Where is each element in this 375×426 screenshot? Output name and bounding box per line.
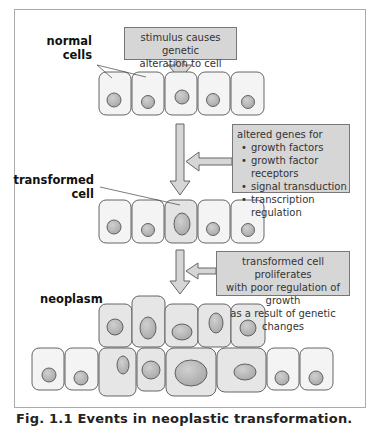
neoplasm-label-text: neoplasm <box>40 292 94 306</box>
proliferation-line3: as a result of genetic changes <box>217 307 349 333</box>
list-item: transcription regulation <box>251 193 349 219</box>
stimulus-line1: stimulus causes genetic <box>125 31 236 57</box>
transformed-cell-label-line2: cell <box>10 187 94 201</box>
altered-genes-box: altered genes for growth factors growth … <box>232 124 350 193</box>
normal-cells-row <box>99 72 264 115</box>
arrow-left-proliferation-icon <box>186 263 216 279</box>
transformed-cell-label-line1: transformed <box>10 173 94 187</box>
stimulus-box: stimulus causes genetic alteration to ce… <box>124 27 237 60</box>
neoplasm-label: neoplasm <box>40 292 94 306</box>
proliferation-line1: transformed cell proliferates <box>217 255 349 281</box>
neoplasm-bottom-row <box>32 348 333 396</box>
normal-cells-label: normal cells <box>30 34 92 62</box>
list-item: signal transduction <box>251 180 349 193</box>
proliferation-box: transformed cell proliferates with poor … <box>216 251 350 296</box>
arrow-left-genes-icon <box>186 152 232 171</box>
list-item: growth factor receptors <box>251 154 349 180</box>
normal-cells-label-line2: cells <box>30 48 92 62</box>
normal-cells-label-line1: normal <box>30 34 92 48</box>
transformed-cell-label: transformed cell <box>10 173 94 201</box>
figure-caption: Fig. 1.1 Events in neoplastic transforma… <box>16 411 352 426</box>
altered-genes-list: growth factors growth factor receptors s… <box>237 141 349 219</box>
arrow-down-transformation-icon <box>170 124 190 195</box>
stimulus-line2: alteration to cell <box>125 57 236 70</box>
altered-genes-heading: altered genes for <box>237 128 349 141</box>
list-item: growth factors <box>251 141 349 154</box>
proliferation-line2: with poor regulation of growth <box>217 281 349 307</box>
